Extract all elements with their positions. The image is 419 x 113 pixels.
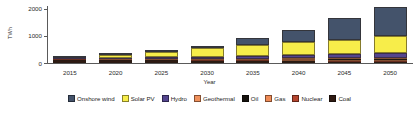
bar-segment-hydro[interactable] [191,57,224,59]
stacked-bar-chart: 010002000 TWh 20152020202520302035204020… [0,0,419,113]
bar-2035[interactable] [236,6,269,63]
bar-segment-hydro[interactable] [328,54,361,58]
legend-item-gas[interactable]: Gas [265,95,285,102]
bar-2030[interactable] [191,6,224,63]
x-tick-label-2035: 2035 [233,69,273,76]
bar-segment-hydro[interactable] [236,56,269,59]
bar-segment-coal[interactable] [191,61,224,63]
legend-item-oil[interactable]: Oil [242,95,258,102]
bar-segment-onshore-wind[interactable] [328,18,361,39]
bar-2040[interactable] [282,6,315,63]
legend-item-hydro[interactable]: Hydro [162,95,187,102]
x-tick-label-2040: 2040 [279,69,319,76]
bar-segment-solar-pv[interactable] [145,52,178,57]
x-tick-label-2050: 2050 [370,69,410,76]
legend-label: Oil [251,95,258,102]
bar-segment-coal[interactable] [145,60,178,63]
legend-item-nuclear[interactable]: Nuclear [292,95,322,102]
chart-legend: Onshore windSolar PVHydroGeothermalOilGa… [0,95,419,102]
bar-segment-onshore-wind[interactable] [282,30,315,42]
legend-item-solar-pv[interactable]: Solar PV [122,95,155,102]
legend-item-coal[interactable]: Coal [329,95,351,102]
legend-swatch-icon [122,95,129,102]
bar-segment-onshore-wind[interactable] [236,38,269,45]
y-tick [44,63,47,64]
y-tick-label: 1000 [0,32,42,39]
bar-segment-hydro[interactable] [282,55,315,58]
bar-segment-onshore-wind[interactable] [374,7,407,36]
x-tick-label-2045: 2045 [324,69,364,76]
legend-label: Solar PV [131,95,155,102]
legend-swatch-icon [194,95,201,102]
bar-segment-solar-pv[interactable] [191,48,224,56]
bar-2045[interactable] [328,6,361,63]
legend-swatch-icon [162,95,169,102]
bar-2020[interactable] [99,6,132,63]
legend-label: Hydro [171,95,187,102]
bar-segment-solar-pv[interactable] [99,55,132,57]
bar-2050[interactable] [374,6,407,63]
y-tick-label: 2000 [0,5,42,12]
bar-segment-onshore-wind[interactable] [53,56,86,58]
x-tick-label-2025: 2025 [141,69,181,76]
bar-segment-onshore-wind[interactable] [191,46,224,49]
legend-label: Coal [338,95,351,102]
legend-item-geothermal[interactable]: Geothermal [194,95,235,102]
x-axis-title: Year [0,79,419,85]
legend-label: Gas [274,95,285,102]
bar-segment-solar-pv[interactable] [236,45,269,56]
bar-2025[interactable] [145,6,178,63]
legend-label: Onshore wind [77,95,115,102]
x-tick-label-2020: 2020 [96,69,136,76]
legend-swatch-icon [68,95,75,102]
bar-segment-onshore-wind[interactable] [99,53,132,55]
plot-area [47,6,413,63]
legend-label: Geothermal [203,95,235,102]
legend-swatch-icon [242,95,249,102]
legend-item-onshore-wind[interactable]: Onshore wind [68,95,115,102]
bar-segment-solar-pv[interactable] [374,36,407,53]
x-tick-label-2030: 2030 [187,69,227,76]
bar-segment-coal[interactable] [53,60,86,63]
bar-segment-solar-pv[interactable] [282,42,315,55]
bar-2015[interactable] [53,6,86,63]
bar-segment-coal[interactable] [236,61,269,63]
bar-segment-hydro[interactable] [374,53,407,58]
legend-swatch-icon [292,95,299,102]
bar-segment-solar-pv[interactable] [328,40,361,55]
bar-segment-coal[interactable] [99,60,132,63]
legend-label: Nuclear [301,95,322,102]
x-axis-line [47,63,413,64]
legend-swatch-icon [265,95,272,102]
legend-swatch-icon [329,95,336,102]
x-tick-label-2015: 2015 [50,69,90,76]
y-tick-label: 0 [0,60,42,67]
bar-segment-onshore-wind[interactable] [145,50,178,52]
